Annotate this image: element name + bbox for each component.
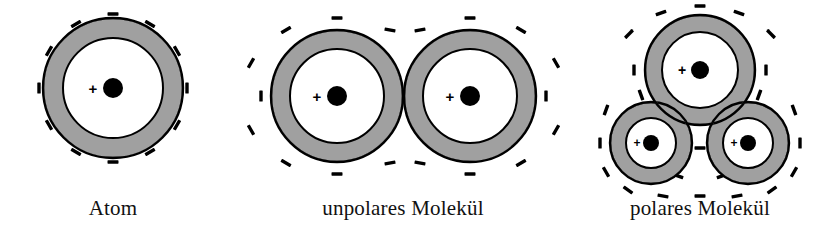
nucleus-dot <box>740 135 756 151</box>
figure-canvas: ++++++ Atomunpolares Molekülpolares Mole… <box>0 0 824 236</box>
positive-charge-label: + <box>633 136 640 150</box>
panel-caption-polar-molecule: polares Molekül <box>630 196 770 220</box>
nucleus-dot <box>691 61 709 79</box>
panel-caption-atom: Atom <box>89 196 138 220</box>
positive-charge-label: + <box>678 62 686 78</box>
panel-caption-nonpolar-molecule: unpolares Molekül <box>322 196 483 220</box>
polarity-diagram: ++++++ Atomunpolares Molekülpolares Mole… <box>0 0 824 236</box>
positive-charge-label: + <box>730 136 737 150</box>
nucleus-dot <box>643 135 659 151</box>
